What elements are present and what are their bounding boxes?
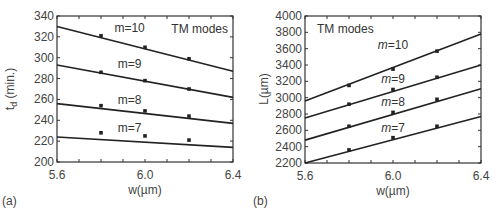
panel-label: (a) bbox=[2, 194, 17, 208]
data-point bbox=[99, 71, 103, 75]
x-tick-label: 6.0 bbox=[137, 168, 154, 182]
y-tick-label: 300 bbox=[34, 51, 54, 65]
y-tick-label: 280 bbox=[34, 72, 54, 86]
x-axis-label: w(µm) bbox=[127, 183, 162, 197]
tm-modes-annotation: TM modes bbox=[317, 22, 374, 36]
data-point bbox=[99, 104, 103, 108]
data-point bbox=[143, 45, 147, 49]
panel-label: (b) bbox=[253, 194, 268, 208]
data-point bbox=[99, 131, 103, 135]
data-point bbox=[435, 75, 439, 79]
series-m-9: m=9 bbox=[57, 57, 233, 97]
data-point bbox=[435, 124, 439, 128]
y-tick-label: 3200 bbox=[275, 74, 302, 88]
data-point bbox=[347, 124, 351, 128]
y-tick-label: 2800 bbox=[275, 107, 302, 121]
series-m-7: m=7 bbox=[57, 121, 233, 148]
y-axis-label: td (min.) bbox=[3, 68, 19, 110]
data-point bbox=[391, 136, 395, 140]
data-point bbox=[187, 114, 191, 118]
series-label: m=8 bbox=[118, 93, 142, 107]
data-point bbox=[143, 134, 147, 138]
series-label: m=7 bbox=[381, 121, 405, 135]
y-tick-label: 3000 bbox=[275, 91, 302, 105]
data-point bbox=[99, 34, 103, 38]
series-label: m=7 bbox=[118, 121, 142, 135]
tm-modes-annotation: TM modes bbox=[171, 22, 228, 36]
data-point bbox=[347, 84, 351, 88]
x-tick-label: 6.0 bbox=[385, 169, 402, 183]
y-tick-label: 3600 bbox=[275, 42, 302, 56]
x-axis-label: w(µm) bbox=[375, 184, 410, 198]
data-point bbox=[391, 111, 395, 115]
y-tick-label: 3800 bbox=[275, 25, 302, 39]
series-m-7: m=7 bbox=[305, 116, 481, 163]
data-point bbox=[187, 87, 191, 91]
data-point bbox=[391, 88, 395, 92]
y-tick-label: 340 bbox=[34, 9, 54, 23]
series-label: m=10 bbox=[378, 38, 409, 52]
y-tick-label: 4000 bbox=[275, 9, 302, 23]
fit-line bbox=[57, 137, 233, 147]
x-tick-label: 5.6 bbox=[297, 169, 314, 183]
data-point bbox=[187, 138, 191, 142]
y-axis-label: L(µm) bbox=[257, 73, 271, 105]
y-tick-label: 240 bbox=[34, 113, 54, 127]
data-point bbox=[435, 49, 439, 53]
series-m-8: m=8 bbox=[57, 93, 233, 124]
y-tick-label: 220 bbox=[34, 134, 54, 148]
x-tick-label: 6.4 bbox=[473, 169, 490, 183]
figure: 5.66.06.4200220240260280300320340w(µm)td… bbox=[0, 0, 501, 212]
series-label: m=10 bbox=[114, 21, 145, 35]
chart-panel-a: 5.66.06.4200220240260280300320340w(µm)td… bbox=[2, 9, 242, 208]
data-point bbox=[143, 79, 147, 83]
series-label: m=8 bbox=[381, 95, 405, 109]
data-point bbox=[391, 67, 395, 71]
plot-frame bbox=[57, 16, 233, 162]
chart-panel-b: 5.66.06.42200240026002800300032003400360… bbox=[253, 9, 490, 208]
x-tick-label: 6.4 bbox=[225, 168, 242, 182]
y-tick-label: 320 bbox=[34, 30, 54, 44]
y-tick-label: 200 bbox=[34, 155, 54, 169]
y-tick-label: 2200 bbox=[275, 156, 302, 170]
y-tick-label: 3400 bbox=[275, 58, 302, 72]
data-point bbox=[435, 98, 439, 102]
y-tick-label: 260 bbox=[34, 92, 54, 106]
y-tick-label: 2600 bbox=[275, 123, 302, 137]
series-label: m=9 bbox=[118, 57, 142, 71]
data-point bbox=[143, 109, 147, 113]
data-point bbox=[187, 57, 191, 61]
data-point bbox=[347, 148, 351, 152]
y-tick-label: 2400 bbox=[275, 140, 302, 154]
data-point bbox=[347, 102, 351, 106]
fit-line bbox=[57, 104, 233, 124]
series-label: m=9 bbox=[381, 72, 405, 86]
x-tick-label: 5.6 bbox=[49, 168, 66, 182]
